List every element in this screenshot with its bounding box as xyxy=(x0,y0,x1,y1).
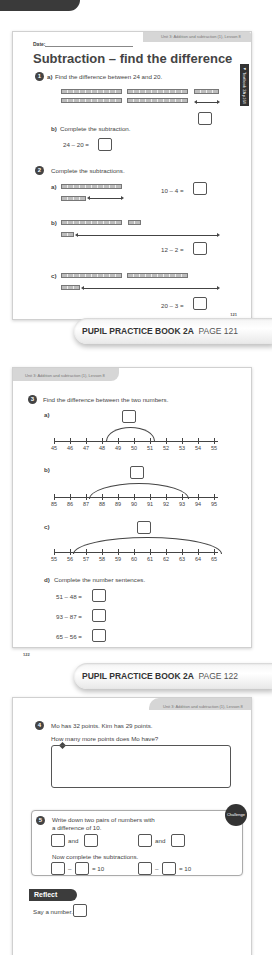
q3c-label: c) xyxy=(44,523,50,530)
jump-arrow xyxy=(77,235,218,236)
question-number-1: 1 xyxy=(35,72,44,81)
q3b-label: b) xyxy=(44,466,50,473)
q3a-label: a) xyxy=(44,411,50,418)
challenge-badge-icon: Challenge xyxy=(225,804,247,826)
q4-line1: Mo has 32 points. Kim has 29 points. xyxy=(51,722,152,729)
q3d-label: d) xyxy=(44,576,50,583)
difference-arrow xyxy=(196,102,218,103)
ones-bar xyxy=(61,285,80,290)
unit-header: Unit 3: Addition and subtraction (1), Le… xyxy=(161,34,241,39)
number-line-a: 45 46 47 48 49 50 51 52 53 54 55 xyxy=(48,429,228,459)
q2a-equation: 10 – 4 = xyxy=(161,187,184,194)
pair1-second-box[interactable] xyxy=(84,834,98,847)
q2a-label: a) xyxy=(51,183,57,190)
q3d-equation-2: 93 – 87 = xyxy=(56,613,82,620)
book-page-banner-122: PUPIL PRACTICE BOOK 2A PAGE 122 xyxy=(74,663,272,689)
q3d-equation-1: 51 – 48 = xyxy=(56,593,82,600)
sub2-second-box[interactable] xyxy=(162,862,176,875)
answer-box-q1a[interactable] xyxy=(198,112,212,125)
answer-box-q3d-1[interactable] xyxy=(92,589,106,602)
page-title: Subtraction – find the difference xyxy=(33,51,232,66)
number-line-c: 55 56 57 58 59 60 61 62 63 64 65 xyxy=(48,540,228,570)
date-field[interactable] xyxy=(45,46,133,47)
answer-box-q1b[interactable] xyxy=(98,138,112,151)
q5-line1: Write down two pairs of numbers with xyxy=(52,816,155,823)
challenge-panel: 5 Write down two pairs of numbers with a… xyxy=(31,810,243,876)
q2b-equation: 12 – 2 = xyxy=(161,246,184,253)
reflect-label: Reflect xyxy=(29,889,77,901)
question-number-2: 2 xyxy=(35,166,44,175)
answer-box-q2a[interactable] xyxy=(193,182,207,195)
sub1-second-box[interactable] xyxy=(75,862,89,875)
book-page: PAGE 121 xyxy=(199,326,239,336)
ones-bar xyxy=(194,89,219,94)
minus-sign: – xyxy=(155,865,158,872)
worksheet-page-123: Unit 3: Addition and subtraction (1), Le… xyxy=(12,697,252,955)
equals-ten: = 10 xyxy=(92,865,104,872)
worksheet-page-122: Unit 3: Addition and subtraction (1), Le… xyxy=(12,367,252,648)
sub1-first-box[interactable] xyxy=(51,862,65,875)
textbook-tab[interactable]: ◄ Textbook 2A p164 xyxy=(240,64,249,106)
book-title: PUPIL PRACTICE BOOK 2A xyxy=(82,671,194,681)
ten-bar xyxy=(61,220,122,225)
pair2-second-box[interactable] xyxy=(171,834,185,847)
and-label: and xyxy=(68,837,78,844)
answer-box-reflect[interactable] xyxy=(73,904,87,917)
worksheet-page-121: Unit 3: Addition and subtraction (1), Le… xyxy=(12,31,252,320)
q5-line2: a difference of 10. xyxy=(52,824,101,831)
q2c-label: c) xyxy=(51,272,57,279)
ten-bar xyxy=(61,184,122,189)
answer-box-q2b[interactable] xyxy=(193,242,207,255)
unit-header: Unit 3: Addition and subtraction (1), Le… xyxy=(25,373,105,378)
equals-ten: = 10 xyxy=(179,865,191,872)
and-label: and xyxy=(155,837,165,844)
unit-header: Unit 3: Addition and subtraction (1), Le… xyxy=(163,704,243,709)
q1a-label: a) xyxy=(47,73,53,80)
minus-sign: – xyxy=(68,865,71,872)
answer-box-q2c[interactable] xyxy=(193,297,207,310)
q3-text: Find the difference between the two numb… xyxy=(43,396,168,403)
question-number-4: 4 xyxy=(35,721,44,730)
q3d-equation-3: 65 – 56 = xyxy=(56,633,82,640)
ten-bar xyxy=(127,98,188,103)
q1a-text: Find the difference between 24 and 20. xyxy=(55,73,162,80)
book-page-banner-121: PUPIL PRACTICE BOOK 2A PAGE 121 xyxy=(74,318,272,344)
date-label: Date: xyxy=(33,41,46,47)
jump-arrow xyxy=(83,288,218,289)
question-number-5: 5 xyxy=(36,816,45,825)
q4-line2: How many more points does Mo have? xyxy=(51,735,158,742)
ten-bar xyxy=(61,273,122,278)
book-title: PUPIL PRACTICE BOOK 2A xyxy=(82,326,194,336)
jump-arrow xyxy=(89,198,122,199)
answer-box-q3b[interactable] xyxy=(130,466,144,479)
reflect-text: Say a number. xyxy=(33,908,73,915)
book-page: PAGE 122 xyxy=(199,671,239,681)
pair2-first-box[interactable] xyxy=(138,834,152,847)
ten-bar xyxy=(61,98,122,103)
q3d-text: Complete the number sentences. xyxy=(54,576,145,583)
answer-box-q4[interactable] xyxy=(51,745,231,788)
ones-bar xyxy=(61,196,86,201)
q1b-text: Complete the subtraction. xyxy=(60,125,131,132)
ones-bar xyxy=(61,232,74,237)
q2-text: Complete the subtractions. xyxy=(51,167,125,174)
number-line-b: 85 86 87 88 89 90 91 92 93 94 95 xyxy=(48,485,228,515)
q5-now-text: Now complete the subtractions. xyxy=(52,853,138,860)
q1b-label: b) xyxy=(51,125,57,132)
ones-bar xyxy=(128,220,141,225)
q2b-label: b) xyxy=(51,219,57,226)
answer-box-q3d-3[interactable] xyxy=(92,629,106,642)
question-number-3: 3 xyxy=(28,395,37,404)
sub2-first-box[interactable] xyxy=(138,862,152,875)
pair1-first-box[interactable] xyxy=(51,834,65,847)
page-number: 122 xyxy=(23,652,30,657)
q1b-equation: 24 – 20 = xyxy=(63,141,89,148)
answer-box-q3a[interactable] xyxy=(122,410,136,423)
q2c-equation: 20 – 3 = xyxy=(161,302,184,309)
answer-box-q3c[interactable] xyxy=(137,521,151,534)
ten-bar xyxy=(127,273,188,278)
ten-bar xyxy=(61,89,122,94)
top-decoration xyxy=(0,0,80,11)
page-number: 121 xyxy=(230,312,237,317)
answer-box-q3d-2[interactable] xyxy=(92,609,106,622)
